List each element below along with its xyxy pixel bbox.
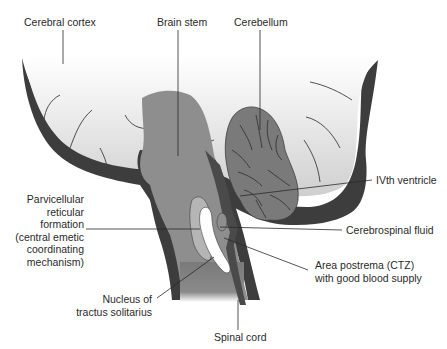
label-cerebellum: Cerebellum bbox=[234, 16, 288, 29]
label-line: coordinating bbox=[10, 243, 84, 256]
area-postrema-shape bbox=[217, 213, 227, 231]
label-line: reticular bbox=[10, 206, 84, 219]
label-spinal-cord: Spinal cord bbox=[214, 331, 267, 344]
label-cerebrospinal-fluid: Cerebrospinal fluid bbox=[346, 224, 434, 237]
label-cerebral-cortex: Cerebral cortex bbox=[24, 16, 96, 29]
label-line: Parvicellular bbox=[10, 193, 84, 206]
label-line: mechanism) bbox=[10, 256, 84, 269]
label-line: with good blood supply bbox=[315, 272, 422, 285]
label-area-postrema: Area postrema (CTZ) with good blood supp… bbox=[315, 259, 422, 284]
label-line: (central emetic bbox=[10, 231, 84, 244]
label-line: Nucleus of bbox=[62, 293, 152, 306]
label-parvicellular-reticular-formation: Parvicellular reticular formation (centr… bbox=[10, 193, 84, 268]
label-line: tractus solitarius bbox=[62, 306, 152, 319]
label-nucleus-tractus-solitarius: Nucleus of tractus solitarius bbox=[62, 293, 152, 318]
label-line: formation bbox=[10, 218, 84, 231]
label-brain-stem: Brain stem bbox=[157, 16, 207, 29]
label-line: Area postrema (CTZ) bbox=[315, 259, 422, 272]
label-fourth-ventricle: IVth ventricle bbox=[376, 174, 437, 187]
